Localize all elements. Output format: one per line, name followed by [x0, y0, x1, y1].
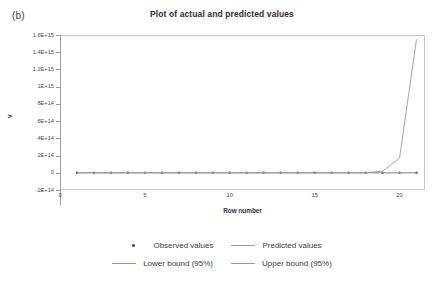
chart-title: Plot of actual and predicted values: [0, 9, 444, 19]
y-axis-title: v: [6, 114, 13, 118]
legend-row: Observed valuesPredicted values: [0, 236, 444, 254]
x-tick-label: 5: [135, 192, 155, 198]
legend-dot-icon: [122, 242, 146, 248]
y-tick-label: 0: [8, 169, 54, 175]
legend-label: Predicted values: [262, 241, 321, 250]
legend-entry[interactable]: Upper bound (95%): [231, 259, 332, 268]
x-tick-label: 15: [305, 192, 325, 198]
legend-label: Observed values: [153, 241, 213, 250]
legend-entry[interactable]: Lower bound (95%): [112, 259, 213, 268]
legend-line-icon: [112, 263, 136, 264]
legend-label: Lower bound (95%): [143, 259, 213, 268]
legend-label: Upper bound (95%): [262, 259, 332, 268]
y-tick-label: 1E+15: [8, 83, 54, 89]
y-tick-label: 2E+14: [8, 152, 54, 158]
legend-row: Lower bound (95%)Upper bound (95%): [0, 254, 444, 272]
y-tick-label: 1.6E+15: [8, 32, 54, 38]
series-line: [77, 39, 417, 172]
x-tick-label: 0: [50, 192, 70, 198]
x-axis-title: Row number: [60, 207, 425, 214]
chart-legend: Observed valuesPredicted valuesLower bou…: [0, 236, 444, 272]
plot-series-canvas: [60, 35, 425, 190]
y-tick-label: -2E+14: [8, 187, 54, 193]
legend-entry[interactable]: Predicted values: [231, 241, 321, 250]
x-tick-label: 10: [220, 192, 240, 198]
legend-line-icon: [231, 263, 255, 264]
y-tick-label: 1.2E+15: [8, 66, 54, 72]
y-tick-mark: [56, 190, 61, 191]
y-tick-label: 6E+14: [8, 118, 54, 124]
y-tick-label: 1.4E+15: [8, 49, 54, 55]
legend-line-icon: [231, 245, 255, 246]
legend-entry[interactable]: Observed values: [122, 241, 213, 250]
x-tick-label: 20: [390, 192, 410, 198]
figure-panel: (b) Plot of actual and predicted values …: [0, 0, 444, 288]
y-tick-label: 8E+14: [8, 100, 54, 106]
y-tick-label: 4E+14: [8, 135, 54, 141]
